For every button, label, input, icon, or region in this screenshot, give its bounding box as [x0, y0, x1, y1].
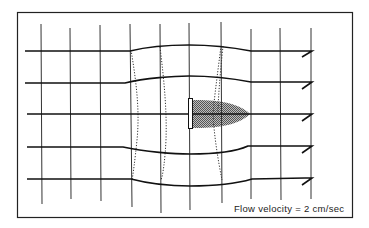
- flow-velocity-caption: Flow velocity = 2 cm/sec: [234, 203, 344, 214]
- streamlines: [25, 45, 305, 186]
- flow-diagram: [0, 0, 369, 228]
- obstacle-plate: [189, 99, 193, 129]
